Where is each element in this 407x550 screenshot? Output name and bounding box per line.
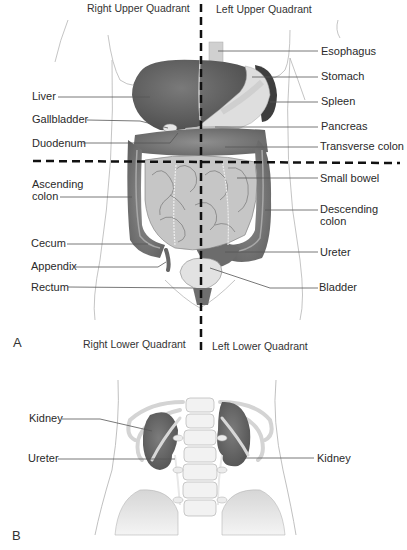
label-spleen: Spleen	[321, 95, 355, 108]
label-bladder: Bladder	[319, 281, 357, 294]
label-duodenum: Duodenum	[32, 137, 86, 150]
label-small-bowel: Small bowel	[320, 172, 379, 185]
quadrant-label-left-lower: Left Lower Quadrant	[212, 340, 308, 352]
label-ascending-colon-line2: colon	[32, 190, 58, 203]
label-kidney-left: Kidney	[29, 412, 63, 425]
left-kidney-shape	[143, 412, 178, 470]
label-gallbladder: Gallbladder	[32, 113, 88, 126]
label-ureter-b: Ureter	[28, 452, 59, 465]
label-stomach: Stomach	[321, 70, 364, 83]
label-pancreas: Pancreas	[321, 120, 367, 133]
label-rectum: Rectum	[31, 281, 69, 294]
label-kidney-right: Kidney	[317, 452, 351, 465]
panel-label-a: A	[13, 335, 22, 350]
label-ureter: Ureter	[320, 246, 351, 259]
panel-label-b: B	[12, 528, 21, 543]
bladder-shape	[180, 258, 222, 290]
right-iliac-shape	[222, 490, 285, 535]
horizontal-quadrant-divider	[33, 161, 400, 163]
quadrant-label-left-upper: Left Upper Quadrant	[216, 3, 312, 15]
label-descending-colon-line2: colon	[320, 215, 346, 228]
label-esophagus: Esophagus	[321, 45, 376, 58]
spine-shape	[183, 398, 217, 516]
label-liver: Liver	[32, 90, 56, 103]
left-iliac-shape	[115, 490, 178, 535]
appendix-shape	[166, 250, 169, 270]
label-transverse-colon: Transverse colon	[320, 140, 404, 153]
quadrant-label-right-upper: Right Upper Quadrant	[87, 2, 190, 14]
label-cecum: Cecum	[31, 237, 66, 250]
quadrant-label-right-lower: Right Lower Quadrant	[83, 338, 186, 350]
label-appendix: Appendix	[31, 260, 77, 273]
